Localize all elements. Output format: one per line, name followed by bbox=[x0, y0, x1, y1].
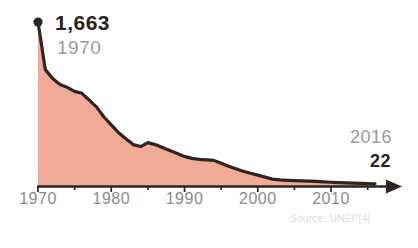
source-note: Source: UNEP[4] bbox=[290, 214, 371, 224]
x-axis-tick-label: 2000 bbox=[239, 190, 277, 208]
chart-container: 1,663 1970 2016 22 Source: UNEP[4] 19701… bbox=[0, 0, 418, 248]
x-axis-tick-label: 2010 bbox=[312, 190, 350, 208]
end-year-label: 2016 bbox=[350, 128, 392, 146]
dot-marker-icon bbox=[33, 17, 42, 26]
x-axis-tick-label: 1990 bbox=[166, 190, 204, 208]
end-value-label: 22 bbox=[370, 152, 391, 170]
peak-year-label: 1970 bbox=[57, 38, 101, 57]
x-axis-tick-label: 1980 bbox=[93, 190, 131, 208]
x-axis-tick-label: 1970 bbox=[19, 190, 57, 208]
peak-value-label: 1,663 bbox=[55, 12, 110, 33]
arrow-right-icon bbox=[386, 180, 402, 194]
